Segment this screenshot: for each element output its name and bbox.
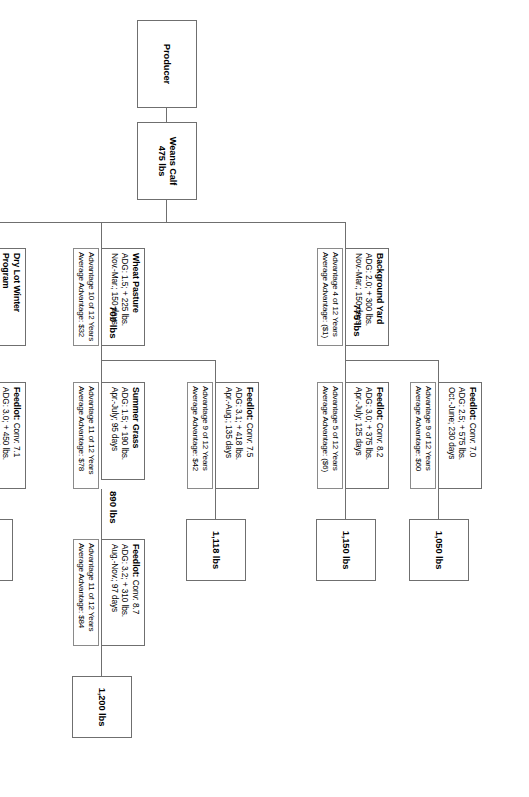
wheat-summer-grass-title: Summer Grass <box>130 387 141 475</box>
wheat-grass-feedlot-title: Feedlot: <box>131 544 141 577</box>
node-final-weight-1200[interactable]: 1,200 lbs <box>72 676 132 738</box>
node-dry-lot-feedlot[interactable]: Feedlot: Conv: 7.1 ADG: 3.0; + 450 lbs. … <box>0 382 26 489</box>
background-feedlot-1-advantage: Advantage 9 of 12 Years <box>423 386 433 485</box>
background-yard-title: Background Yard <box>374 253 385 341</box>
wheat-feedlot-advantage: Advantage 9 of 12 Years <box>200 386 210 485</box>
dry-lot-title: Dry Lot Winter Program <box>0 253 22 341</box>
wheat-feedlot-detail2: Apr.-Aug.; 135 days <box>223 387 233 484</box>
wheat-pasture-title: Wheat Pasture <box>130 253 141 341</box>
wheat-summer-grass-average: Average Advantage: $78 <box>76 386 86 485</box>
wheat-feedlot-average: Average Advantage: $42 <box>190 386 200 485</box>
connector-weans-trunk <box>166 200 167 222</box>
advantage-wheat-grass-feedlot[interactable]: Advantage 11 of 12 Years Average Advanta… <box>73 539 99 646</box>
wheat-grass-feedlot-conv: Conv: 8.7 <box>131 580 141 615</box>
connector-wheat-f-final <box>215 489 216 519</box>
background-feedlot-1-average: Average Advantage: $60 <box>413 386 423 485</box>
weans-calf-line2: 475 lbs <box>156 146 167 176</box>
node-background-feedlot-1[interactable]: Feedlot: Conv: 7.0 ADG: 2.5; + 575 lbs. … <box>438 382 482 489</box>
wheat-pasture-detail1: ADG: 1.5; + 225 lbs. <box>120 253 130 341</box>
connector-bg-feedlot1 <box>438 360 439 382</box>
connector-bg-out <box>345 345 346 361</box>
node-producer[interactable]: Producer <box>137 20 197 108</box>
advantage-background-feedlot-2[interactable]: Advantage 5 of 12 Years Average Advantag… <box>317 382 343 489</box>
background-yard-advantage: Advantage 4 of 12 Years <box>330 252 340 342</box>
connector-bg-f1-final <box>438 489 439 519</box>
node-wheat-feedlot[interactable]: Feedlot: Conv: 7.5 ADG: 3.1; + 418 lbs. … <box>215 382 259 489</box>
advantage-wheat-summer-grass[interactable]: Advantage 11 of 12 Years Average Advanta… <box>73 382 99 489</box>
node-background-feedlot-2[interactable]: Feedlot: Conv: 8.2 ADG: 3.0; + 375 lbs. … <box>345 382 389 489</box>
connector-bg-feedlot2 <box>345 360 346 382</box>
wheat-summer-grass-advantage: Advantage 11 of 12 Years <box>86 386 96 485</box>
dry-lot-feedlot-conv: Conv: 7.1 <box>12 423 22 458</box>
advantage-wheat-pasture[interactable]: Advantage 10 of 12 Years Average Advanta… <box>73 248 99 346</box>
connector-wheatgrass-f-final <box>101 646 102 676</box>
node-final-weight-1150[interactable]: 1,150 lbs <box>316 519 376 581</box>
connector-trunk-wheat <box>101 222 102 248</box>
node-final-weight-1050[interactable]: 1,050 lbs <box>409 519 469 581</box>
weight-background-yard: 775 lbs <box>352 304 363 337</box>
dry-lot-feedlot-detail2: Apr.-Aug.; 150 days <box>0 387 1 484</box>
wheat-pasture-average: Average Advantage: $32 <box>76 252 86 342</box>
dry-lot-feedlot-detail1: ADG: 3.0; + 450 lbs. <box>1 387 11 484</box>
diagram-page: Producer Weans Calf 475 lbs Background Y… <box>0 0 529 797</box>
node-wheat-summer-grass[interactable]: Summer Grass ADG: 1.5; + 190 lbs. Apr.-J… <box>101 382 145 480</box>
background-feedlot-1-conv: Conv: 7.0 <box>468 423 478 458</box>
wheat-grass-feedlot-average: Average Advantage: $84 <box>76 543 86 642</box>
node-final-weight-1075[interactable]: 1,075 lbs <box>0 519 13 581</box>
background-yard-detail1: ADG: 2.0; + 300 lbs. <box>364 253 374 341</box>
background-feedlot-1-title: Feedlot: <box>468 387 478 420</box>
trunk-vertical <box>0 222 346 223</box>
weans-calf-line1: Weans Calf <box>167 137 178 185</box>
node-weans-calf[interactable]: Weans Calf 475 lbs <box>137 122 197 200</box>
connector-wheat-out <box>101 345 102 361</box>
node-dry-lot-winter-program[interactable]: Dry Lot Winter Program ADG: 1.0; + 150 l… <box>0 248 26 346</box>
connector-wheatgrass-out <box>101 489 102 517</box>
background-yard-average: Average Advantage: ($1) <box>320 252 330 342</box>
background-feedlot-2-advantage: Advantage 5 of 12 Years <box>330 386 340 485</box>
advantage-background-yard[interactable]: Advantage 4 of 12 Years Average Advantag… <box>317 248 343 346</box>
background-feedlot-1-detail2: Oct.-June; 230 days <box>446 387 456 484</box>
background-feedlot-2-average: Average Advantage: ($6) <box>320 386 330 485</box>
wheat-summer-grass-detail1: ADG: 1.5; + 190 lbs. <box>120 387 130 475</box>
connector-bg-split <box>346 360 439 361</box>
wheat-pasture-advantage: Advantage 10 of 12 Years <box>86 252 96 342</box>
dry-lot-feedlot-title: Feedlot: <box>12 387 22 420</box>
weight-wheat-pasture: 700 lbs <box>108 306 119 339</box>
wheat-summer-grass-detail2: Apr.-July; 95 days <box>109 387 119 475</box>
background-feedlot-2-conv: Conv: 8.2 <box>375 423 385 458</box>
weight-wheat-summer-grass: 890 lbs <box>108 491 119 524</box>
wheat-grass-feedlot-detail1: ADG: 3.2; + 310 lbs. <box>120 544 130 641</box>
node-final-weight-1118[interactable]: 1,118 lbs <box>186 519 246 581</box>
background-feedlot-2-title: Feedlot: <box>375 387 385 420</box>
connector-wheat-feedlot <box>215 360 216 382</box>
advantage-background-feedlot-1[interactable]: Advantage 9 of 12 Years Average Advantag… <box>410 382 436 489</box>
background-feedlot-2-detail2: Apr.-July; 125 days <box>353 387 363 484</box>
wheat-feedlot-conv: Conv: 7.5 <box>245 423 255 458</box>
connector-trunk-background <box>345 222 346 248</box>
connector-bg-f2-final <box>345 489 346 519</box>
connector-wheatgrass-feedlot <box>101 517 102 539</box>
background-feedlot-2-detail1: ADG: 3.0; + 375 lbs. <box>364 387 374 484</box>
connector-wheat-split <box>102 360 216 361</box>
connector-wheat-grass <box>101 360 102 382</box>
wheat-feedlot-detail1: ADG: 3.1; + 418 lbs. <box>234 387 244 484</box>
wheat-grass-feedlot-detail2: Aug.-Nov.; 97 days <box>109 544 119 641</box>
flowchart-canvas: Producer Weans Calf 475 lbs Background Y… <box>0 0 529 797</box>
background-feedlot-1-detail1: ADG: 2.5; + 575 lbs. <box>457 387 467 484</box>
wheat-grass-feedlot-advantage: Advantage 11 of 12 Years <box>86 543 96 642</box>
node-wheat-grass-feedlot[interactable]: Feedlot: Conv: 8.7 ADG: 3.2; + 310 lbs. … <box>101 539 145 646</box>
advantage-wheat-feedlot[interactable]: Advantage 9 of 12 Years Average Advantag… <box>187 382 213 489</box>
wheat-feedlot-title: Feedlot: <box>245 387 255 420</box>
